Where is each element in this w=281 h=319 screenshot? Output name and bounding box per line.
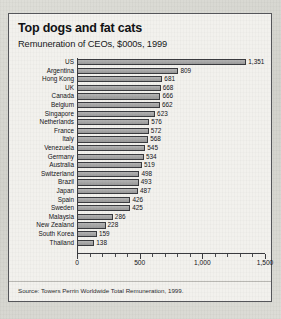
chart-title: Top dogs and fat cats bbox=[18, 21, 142, 35]
x-tick-label: 0 bbox=[75, 259, 79, 266]
chart-panel: Top dogs and fat cats Remuneration of CE… bbox=[8, 13, 272, 302]
x-tick-minor bbox=[165, 254, 166, 257]
category-label: Singapore bbox=[9, 110, 74, 119]
value-label: 545 bbox=[147, 144, 158, 153]
bar bbox=[77, 205, 130, 211]
bar bbox=[77, 197, 130, 203]
category-label: Switzerland bbox=[9, 170, 74, 179]
bar bbox=[77, 214, 113, 220]
category-label: Hong Kong bbox=[9, 75, 74, 84]
value-label: 498 bbox=[141, 170, 152, 179]
bar-row: US1,351 bbox=[9, 58, 273, 67]
bar bbox=[77, 119, 149, 125]
x-tick-minor bbox=[90, 254, 91, 257]
x-tick-label: 500 bbox=[134, 259, 145, 266]
bar bbox=[77, 154, 144, 160]
source-note: Source: Towers Perrin Worldwide Total Re… bbox=[18, 287, 183, 294]
x-tick-minor bbox=[190, 254, 191, 257]
category-label: Belgium bbox=[9, 101, 74, 110]
category-label: Thailand bbox=[9, 239, 74, 248]
category-label: Venezuela bbox=[9, 144, 74, 153]
x-tick-minor bbox=[152, 254, 153, 257]
value-label: 666 bbox=[162, 92, 173, 101]
value-label: 425 bbox=[132, 204, 143, 213]
bar-row: Germany534 bbox=[9, 153, 273, 162]
x-axis-line bbox=[77, 253, 265, 254]
value-label: 668 bbox=[163, 84, 174, 93]
bar bbox=[77, 59, 246, 65]
bar bbox=[77, 171, 139, 177]
category-label: New Zealand bbox=[9, 221, 74, 230]
x-tick-minor bbox=[177, 254, 178, 257]
value-label: 159 bbox=[99, 230, 110, 239]
category-label: South Korea bbox=[9, 230, 74, 239]
category-label: Italy bbox=[9, 135, 74, 144]
bar bbox=[77, 136, 148, 142]
bar-row: Argentina809 bbox=[9, 67, 273, 76]
x-tick-minor bbox=[127, 254, 128, 257]
bar bbox=[77, 162, 142, 168]
bar bbox=[77, 188, 138, 194]
bar-row: France572 bbox=[9, 127, 273, 136]
bar bbox=[77, 85, 161, 91]
bar-row: Hong Kong681 bbox=[9, 75, 273, 84]
category-label: Brazil bbox=[9, 178, 74, 187]
bar bbox=[77, 93, 160, 99]
chart-subtitle: Remuneration of CEOs, $000s, 1999 bbox=[18, 39, 167, 49]
value-label: 138 bbox=[96, 239, 107, 248]
bar-row: Singapore623 bbox=[9, 110, 273, 119]
plot-area: US1,351Argentina809Hong Kong681UK668Cana… bbox=[9, 58, 273, 268]
source-divider bbox=[9, 281, 271, 282]
x-tick-label: 1,000 bbox=[194, 259, 211, 266]
category-label: UK bbox=[9, 84, 74, 93]
value-label: 534 bbox=[146, 153, 157, 162]
category-label: Japan bbox=[9, 187, 74, 196]
bar-row: Thailand138 bbox=[9, 239, 273, 248]
bar bbox=[77, 68, 178, 74]
value-label: 1,351 bbox=[248, 58, 264, 67]
bar-row: Malaysia286 bbox=[9, 213, 273, 222]
x-tick-minor bbox=[102, 254, 103, 257]
bar-row: New Zealand228 bbox=[9, 221, 273, 230]
bar bbox=[77, 240, 94, 246]
bar-row: Sweden425 bbox=[9, 204, 273, 213]
bar bbox=[77, 128, 149, 134]
x-tick-minor bbox=[215, 254, 216, 257]
value-label: 568 bbox=[150, 135, 161, 144]
category-label: France bbox=[9, 127, 74, 136]
value-label: 662 bbox=[162, 101, 173, 110]
category-label: Canada bbox=[9, 92, 74, 101]
x-tick-minor bbox=[115, 254, 116, 257]
bar bbox=[77, 231, 97, 237]
category-label: Spain bbox=[9, 196, 74, 205]
category-label: Argentina bbox=[9, 67, 74, 76]
x-tick-minor bbox=[240, 254, 241, 257]
x-tick-minor bbox=[252, 254, 253, 257]
bar bbox=[77, 179, 139, 185]
bar-row: Japan487 bbox=[9, 187, 273, 196]
value-label: 809 bbox=[180, 67, 191, 76]
value-label: 623 bbox=[157, 110, 168, 119]
bar-row: UK668 bbox=[9, 84, 273, 93]
bar-row: South Korea159 bbox=[9, 230, 273, 239]
bar bbox=[77, 76, 162, 82]
category-label: US bbox=[9, 58, 74, 67]
category-label: Netherlands bbox=[9, 118, 74, 127]
bar-row: Brazil493 bbox=[9, 178, 273, 187]
value-label: 426 bbox=[132, 196, 143, 205]
x-tick-label: 1,500 bbox=[257, 259, 274, 266]
value-label: 487 bbox=[140, 187, 151, 196]
value-label: 519 bbox=[144, 161, 155, 170]
bar-row: Australia519 bbox=[9, 161, 273, 170]
bar-row: Canada666 bbox=[9, 92, 273, 101]
category-label: Malaysia bbox=[9, 213, 74, 222]
bar-row: Switzerland498 bbox=[9, 170, 273, 179]
value-label: 493 bbox=[141, 178, 152, 187]
bar bbox=[77, 111, 155, 117]
category-label: Australia bbox=[9, 161, 74, 170]
value-label: 681 bbox=[164, 75, 175, 84]
bar bbox=[77, 102, 160, 108]
value-label: 572 bbox=[151, 127, 162, 136]
bar-row: Netherlands576 bbox=[9, 118, 273, 127]
x-tick-minor bbox=[227, 254, 228, 257]
